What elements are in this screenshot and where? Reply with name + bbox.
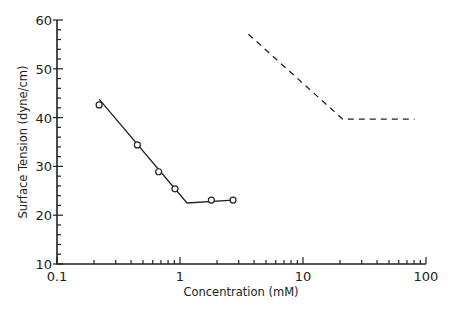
reference-line [248,34,414,119]
data-point-marker [172,186,178,192]
plot-area [96,34,415,203]
y-tick-label: 60 [35,13,52,28]
y-tick-label: 40 [35,111,52,126]
x-tick-label: 10 [295,269,312,284]
data-point-marker [134,142,140,148]
axis-lines [57,20,426,264]
y-tick-label: 50 [35,62,52,77]
x-tick-label: 100 [414,269,439,284]
y-tick-label: 30 [35,159,52,174]
surface-tension-chart: 0.1110100102030405060 Concentration (mM)… [0,0,451,311]
y-tick-label: 10 [35,257,52,272]
axes: 0.1110100102030405060 [35,13,438,284]
data-point-marker [96,102,102,108]
x-tick-label: 1 [176,269,184,284]
data-point-marker [230,197,236,203]
y-tick-label: 20 [35,208,52,223]
data-point-marker [208,197,214,203]
data-point-marker [156,169,162,175]
x-axis-label: Concentration (mM) [183,285,298,299]
fit-line [99,99,233,203]
y-axis-label: Surface Tension (dyne/cm) [16,66,30,219]
